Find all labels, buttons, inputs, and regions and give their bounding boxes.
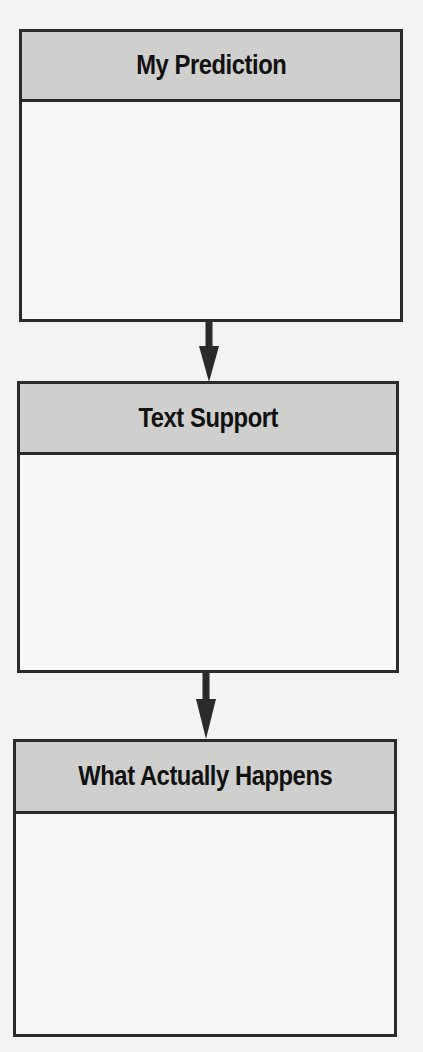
box-title: Text Support [138,403,277,434]
box-body-writing-area[interactable] [20,455,396,670]
box-body-writing-area[interactable] [16,814,394,1034]
arrow-down-icon [196,671,216,739]
arrow-down-icon [199,320,219,382]
box-header: What Actually Happens [16,742,394,814]
box-header: Text Support [20,384,396,455]
box-title: My Prediction [136,50,286,81]
box-what-actually-happens: What Actually Happens [13,739,397,1037]
box-body-writing-area[interactable] [22,102,400,319]
box-my-prediction: My Prediction [19,29,403,322]
box-text-support: Text Support [17,381,399,673]
box-title: What Actually Happens [78,761,332,792]
box-header: My Prediction [22,32,400,102]
